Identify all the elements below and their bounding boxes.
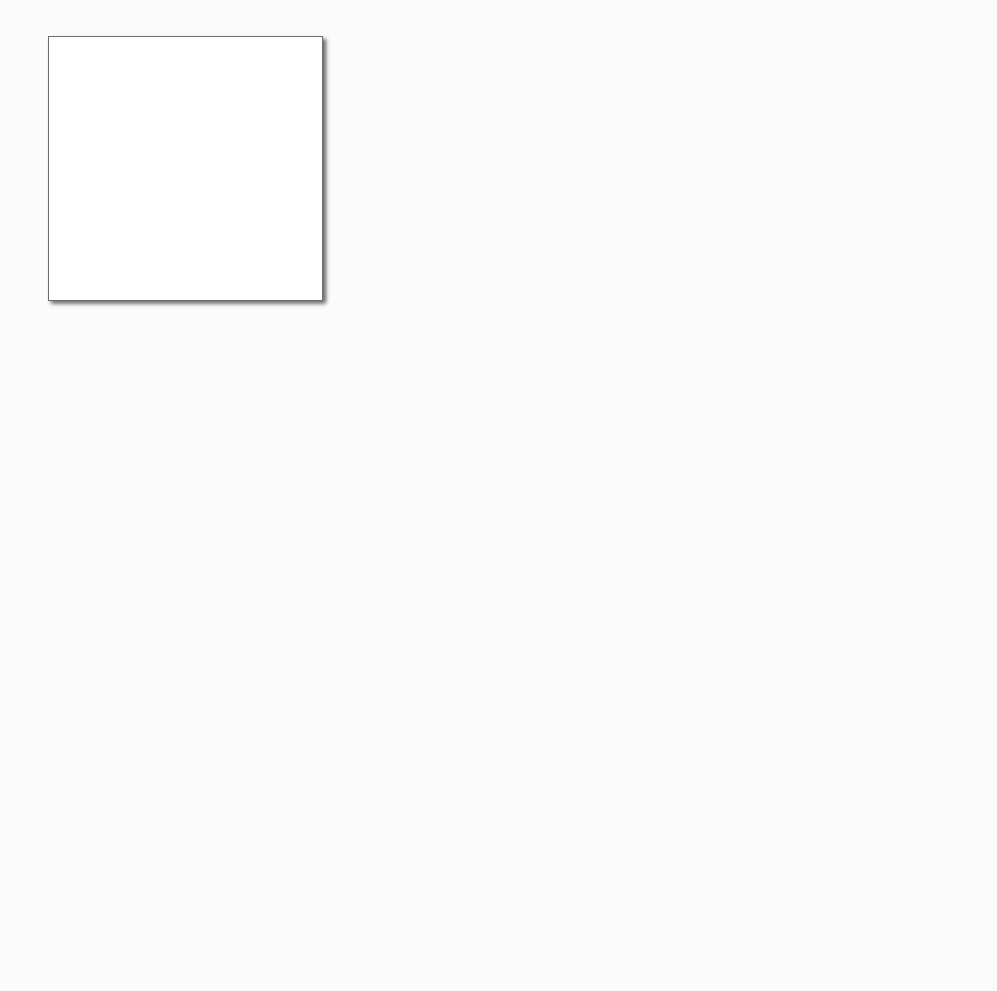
lane-customer bbox=[48, 36, 323, 301]
